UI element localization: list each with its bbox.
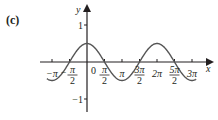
svg-text:−: − bbox=[61, 67, 67, 78]
x-tick-label: 5π bbox=[169, 64, 180, 75]
y-axis-label: y bbox=[75, 4, 81, 15]
x-tick-label: −π bbox=[46, 68, 59, 79]
x-tick-label: 2π bbox=[152, 68, 163, 79]
y-tick-label: −1 bbox=[72, 94, 83, 105]
x-tick-label: π bbox=[119, 68, 125, 79]
x-tick-label: 3π bbox=[133, 64, 145, 75]
cosine-plot: xy01−1−π−π2π2π3π22π5π23π bbox=[0, 0, 218, 120]
axes bbox=[40, 6, 212, 112]
svg-text:2: 2 bbox=[172, 75, 177, 86]
svg-text:2: 2 bbox=[70, 75, 75, 86]
y-tick-label: 1 bbox=[78, 20, 83, 31]
svg-text:2: 2 bbox=[102, 75, 107, 86]
x-axis-label: x bbox=[205, 63, 211, 74]
svg-text:2: 2 bbox=[137, 75, 142, 86]
x-tick-label: 3π bbox=[186, 68, 198, 79]
tick-labels: xy01−1−π−π2π2π3π22π5π23π bbox=[46, 4, 211, 105]
origin-label: 0 bbox=[91, 65, 96, 76]
x-tick-label: π bbox=[70, 64, 76, 75]
